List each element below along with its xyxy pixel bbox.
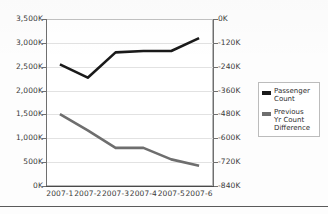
- right-axis-tick-label: -120K: [218, 38, 258, 47]
- left-axis-tick-label: 3,500K: [1, 14, 43, 23]
- axis-spine-bottom: [46, 186, 214, 187]
- right-axis-tick-label: 0K: [218, 14, 258, 23]
- legend-swatch-passenger-count: [262, 91, 271, 95]
- series-layer: [46, 19, 213, 186]
- right-axis-tick-label: -720K: [218, 157, 258, 166]
- right-axis-tick-label: -600K: [218, 133, 258, 142]
- legend-label-prev-yr-difference: Previous Yr Count Difference: [274, 108, 310, 132]
- axis-spine-right: [213, 19, 214, 186]
- legend-swatch-prev-yr-difference: [262, 112, 271, 116]
- legend-label-passenger-count: Passenger Count: [274, 87, 310, 103]
- right-axis-tick-mark: [214, 114, 218, 115]
- right-axis-tick-label: -240K: [218, 62, 258, 71]
- x-axis-tick-label: 2007-6: [182, 189, 216, 198]
- left-axis-tick-mark: [42, 186, 46, 187]
- right-axis-tick-mark: [214, 162, 218, 163]
- chart-legend: Passenger Count Previous Yr Count Differ…: [258, 82, 320, 137]
- right-axis-tick-mark: [214, 138, 218, 139]
- left-axis-tick-label: 1,000K: [1, 133, 43, 142]
- right-axis-tick-mark: [214, 91, 218, 92]
- left-axis-tick-label: 2,000K: [1, 86, 43, 95]
- legend-item-prev-yr-difference[interactable]: Previous Yr Count Difference: [262, 108, 316, 132]
- left-axis-tick-label: 3,000K: [1, 38, 43, 47]
- series-line-prev-yr-difference: [60, 114, 199, 166]
- right-axis-tick-mark: [214, 43, 218, 44]
- page-divider: [0, 206, 328, 207]
- right-axis-tick-mark: [214, 186, 218, 187]
- right-axis-tick-label: -360K: [218, 86, 258, 95]
- right-axis-tick-label: -480K: [218, 109, 258, 118]
- chart-container: 0K500K1,000K1,500K2,000K2,500K3,000K3,50…: [0, 0, 328, 214]
- series-line-passenger-count: [60, 38, 199, 78]
- right-axis-tick-mark: [214, 67, 218, 68]
- left-axis-tick-label: 2,500K: [1, 62, 43, 71]
- right-axis-tick-mark: [214, 19, 218, 20]
- left-axis-tick-label: 1,500K: [1, 109, 43, 118]
- left-axis-tick-label: 0K: [1, 181, 43, 190]
- left-axis-tick-label: 500K: [1, 157, 43, 166]
- legend-item-passenger-count[interactable]: Passenger Count: [262, 87, 316, 103]
- right-axis-tick-label: -840K: [218, 181, 258, 190]
